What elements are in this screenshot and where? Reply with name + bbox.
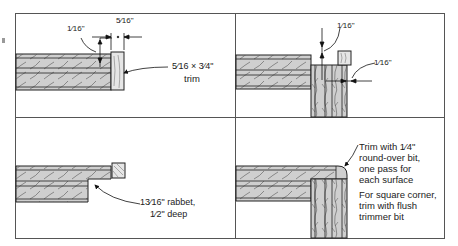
edge-trim [111, 52, 124, 90]
panel-top-right [236, 28, 375, 117]
label-square-3: trimmer bit [359, 212, 404, 223]
horizontal-panel [236, 55, 311, 89]
margin-mark [2, 38, 5, 43]
vertical-panel-rounded [311, 179, 347, 238]
label-roundover-4: each surface [359, 175, 413, 186]
panel-top-left [16, 33, 168, 90]
panel-bottom-right [236, 145, 358, 238]
label-trim-word: trim [184, 74, 200, 85]
panel-bottom-left [16, 163, 140, 204]
leader-trim-size [124, 67, 168, 73]
rabbeted-panel [16, 166, 111, 202]
corner-trim [338, 51, 351, 65]
plywood-panel [16, 54, 111, 90]
label-trim-thickness: 5⁄16" [116, 17, 134, 26]
label-rabbet-depth: 1⁄2" deep [150, 209, 187, 219]
vertical-panel [311, 65, 347, 117]
label-trim-size: 5⁄16 × 3⁄4" [172, 61, 213, 71]
leader-roundover [345, 145, 358, 166]
label-side-overhang: 1⁄16" [374, 59, 392, 68]
label-top-overhang: 1⁄16" [337, 22, 355, 31]
leader-rabbet [95, 185, 140, 204]
rabbet-trim [112, 163, 125, 178]
label-overhang: 1⁄16" [67, 25, 85, 34]
label-rabbet: 13⁄16" rabbet, [140, 197, 195, 207]
